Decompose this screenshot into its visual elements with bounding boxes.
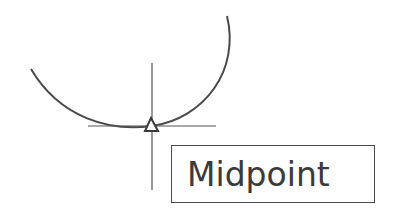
drawing-canvas[interactable]: Midpoint: [0, 0, 394, 217]
snap-tooltip-label: Midpoint: [187, 158, 330, 191]
arc-entity[interactable]: [31, 16, 230, 127]
snap-tooltip: Midpoint: [171, 145, 375, 203]
